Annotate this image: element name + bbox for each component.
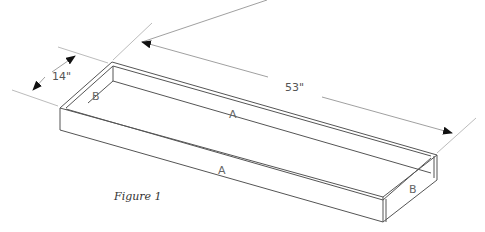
part-label-b-right: B [409,183,417,196]
width-label: 14" [52,70,71,83]
width-dimension: 14" [33,56,75,90]
part-label-a-back: A [229,108,237,121]
length-dimension: 53" [142,0,452,133]
extension-lines [12,23,476,153]
part-label-a-front: A [218,164,226,177]
part-label-b-left: B [92,90,100,103]
box-diagram: 14" 53" B A A B Figure 1 [0,0,485,232]
length-label: 53" [285,81,304,94]
figure-caption: Figure 1 [113,190,162,203]
